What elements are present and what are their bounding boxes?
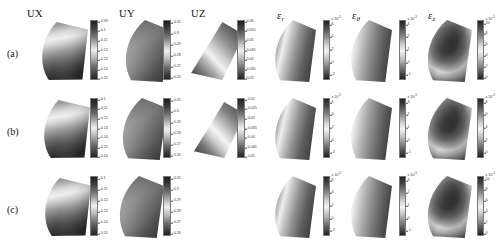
column-title-uy-text: UY (119, 8, 135, 19)
tick: 2 (408, 36, 410, 40)
tick: -0.05 (247, 155, 255, 159)
tick: 0 (486, 232, 488, 236)
tick: -0.27 (173, 65, 181, 69)
panel-b-ux (34, 100, 90, 158)
panel-b-epsilon-z (420, 98, 472, 160)
colorbar-c-epsilon-theta: x 10-3 3 2 1 0 -1 (399, 176, 406, 236)
colorbar-exponent: x 10-3 (408, 16, 417, 21)
panel-c-epsilon-theta (344, 176, 392, 238)
tick: -0.28 (173, 210, 181, 214)
tick: 4 (332, 114, 334, 118)
tick: 0.04 (247, 58, 254, 62)
tick: 4 (486, 210, 488, 214)
tick: -0.27 (173, 143, 181, 147)
tick: -0.3 (173, 189, 179, 193)
tick: 2 (332, 126, 334, 130)
tick: 3 (408, 179, 410, 183)
tick: -0.15 (100, 146, 108, 150)
tick: 2 (408, 192, 410, 196)
panel-c-uy (112, 176, 164, 238)
panel-a-epsilon-r (268, 20, 316, 82)
tick: 2 (332, 48, 334, 52)
colorbar-b-epsilon-theta: x 10-3 3 2 1 0 -1 (399, 98, 406, 158)
colorbar-c-ux: -0.1 -0.11 -0.12 -0.13 -0.14 -0.15 (90, 176, 98, 236)
tick: -0.13 (100, 58, 108, 62)
tick: -2 (332, 229, 335, 233)
tick: -0.12 (100, 49, 108, 53)
tick: -0.13 (100, 127, 108, 131)
tick: 0 (332, 217, 334, 221)
tick: -0.14 (100, 136, 108, 140)
tick: -0.14 (100, 68, 108, 72)
tick: -0.29 (173, 43, 181, 47)
tick: 0.05 (247, 39, 254, 43)
tick: 6 (332, 23, 334, 27)
tick: 0 (408, 139, 410, 143)
colorbar-exponent: x 10-3 (486, 94, 495, 99)
colorbar-b-uy: -0.31 -0.3 -0.29 -0.28 -0.27 -0.26 (163, 98, 171, 158)
colorbar-exponent: x 10-3 (408, 94, 417, 99)
tick: 8 (486, 101, 488, 105)
tick: 2 (486, 65, 488, 69)
tick: -2 (332, 73, 335, 77)
tick: -0.3 (173, 111, 179, 115)
column-title-ux: UX (27, 8, 43, 19)
tick: -0.11 (100, 108, 108, 112)
tick: -1 (408, 151, 411, 155)
colorbar-c-epsilon-z: x 10-3 10 8 6 4 2 0 (477, 176, 484, 236)
tick: 1 (408, 126, 410, 130)
tick: -0.1 (100, 177, 106, 181)
figure-contour-grid: UX UY UZ εr εθ εz (a) (b) (c) (0, 0, 503, 243)
tick: 4 (486, 54, 488, 58)
colorbar-a-uz: 0.06 0.055 0.05 0.045 0.04 0.035 0.03 (237, 20, 245, 80)
tick: -0.14 (100, 221, 108, 225)
colorbar-c-uy: -0.31 -0.3 -0.29 -0.28 -0.27 -0.26 (163, 176, 171, 236)
tick: 6 (332, 179, 334, 183)
colorbar-exponent: x 10-3 (408, 172, 417, 177)
tick: 4 (486, 126, 488, 130)
colorbar-a-uy: -0.31 -0.3 -0.29 -0.28 -0.27 -0.26 (163, 20, 171, 80)
tick: -0.11 (100, 189, 108, 193)
tick: -0.16 (100, 155, 108, 159)
tick: -0.025 (247, 108, 257, 112)
tick: -0.1 (100, 98, 106, 102)
tick: -0.035 (247, 127, 257, 131)
colorbar-b-ux: -0.1 -0.11 -0.12 -0.13 -0.14 -0.15 -0.16 (90, 98, 98, 158)
tick: -0.31 (173, 21, 181, 25)
tick: -0.13 (100, 210, 108, 214)
colorbar-c-epsilon-r: x 10-3 6 4 2 0 -2 (323, 176, 330, 236)
colorbar-c-uy-ticks: -0.31 -0.3 -0.29 -0.28 -0.27 -0.26 (171, 176, 197, 236)
tick: -0.09 (100, 20, 108, 24)
tick: 0 (486, 76, 488, 80)
tick: -0.26 (173, 76, 181, 80)
tick: 3 (408, 101, 410, 105)
tick: 0 (332, 61, 334, 65)
column-title-uz-text: UZ (191, 8, 206, 19)
colorbar-b-epsilon-r: x 10-3 6 4 2 0 -2 (323, 98, 330, 158)
tick: 4 (332, 192, 334, 196)
tick: -1 (408, 229, 411, 233)
tick: -0.29 (173, 199, 181, 203)
tick: 6 (332, 101, 334, 105)
tick: -0.04 (247, 136, 255, 140)
panel-b-epsilon-theta (344, 98, 392, 160)
tick: 6 (486, 199, 488, 203)
tick: 0 (408, 217, 410, 221)
tick: -2 (332, 151, 335, 155)
tick: 2 (486, 221, 488, 225)
tick: -0.29 (173, 121, 181, 125)
tick: -0.31 (173, 177, 181, 181)
tick: 2 (332, 204, 334, 208)
row-label-a: (a) (7, 48, 18, 59)
tick: -0.12 (100, 117, 108, 121)
tick: 0 (408, 61, 410, 65)
tick: 1 (408, 48, 410, 52)
tick: 10 (486, 178, 490, 182)
column-title-uy: UY (119, 8, 135, 19)
tick: 0 (332, 139, 334, 143)
colorbar-a-epsilon-z: x 10-3 10 8 6 4 2 0 (477, 20, 484, 80)
tick: 0.03 (247, 77, 254, 81)
colorbar-exponent: x 10-3 (332, 16, 341, 21)
panel-a-ux (32, 22, 88, 80)
panel-c-epsilon-z (420, 176, 472, 238)
